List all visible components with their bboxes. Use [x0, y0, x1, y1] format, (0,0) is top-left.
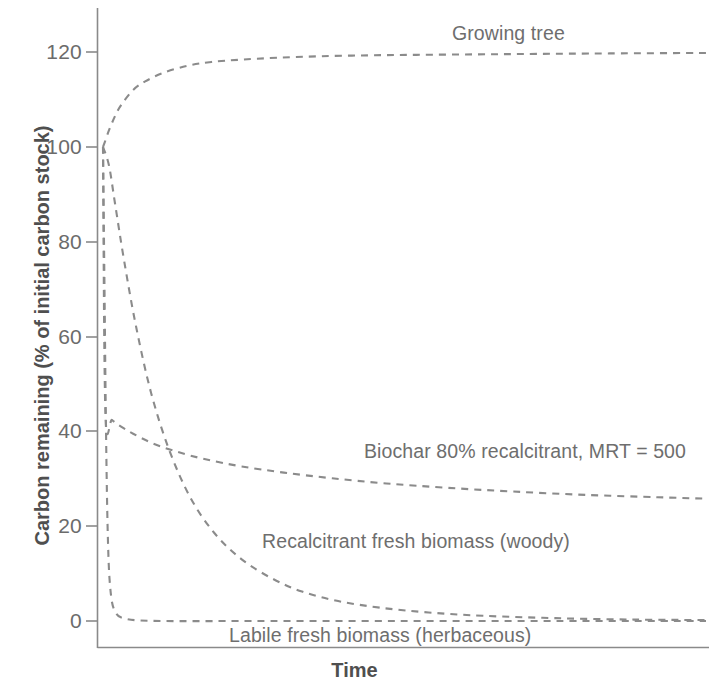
series-label-biochar: Biochar 80% recalcitrant, MRT = 500 — [364, 440, 686, 463]
y-axis-title: Carbon remaining (% of initial carbon st… — [31, 56, 54, 616]
chart-plot-area — [0, 0, 709, 688]
series-label-recalcitrant: Recalcitrant fresh biomass (woody) — [262, 530, 570, 553]
series-label-growing-tree: Growing tree — [452, 22, 565, 45]
series-line — [103, 53, 706, 147]
carbon-remaining-chart: 120 100 80 60 40 20 0 Growing tree Bioch… — [0, 0, 709, 688]
series-label-labile: Labile fresh biomass (herbaceous) — [229, 624, 531, 647]
y-axis-ticks — [86, 52, 98, 621]
x-axis-title: Time — [0, 659, 709, 682]
